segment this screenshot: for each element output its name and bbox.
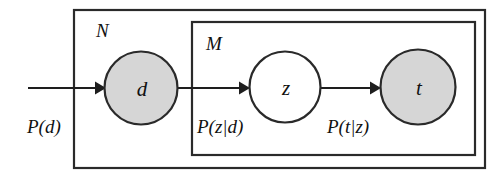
node-z: z	[250, 52, 321, 123]
edge-label-z-t: P(t|z)	[326, 116, 369, 138]
node-d: d	[105, 52, 178, 125]
edge-d-z	[178, 82, 250, 95]
edge-label-prior-d: P(d)	[26, 116, 61, 138]
plate-label-m: M	[205, 33, 223, 54]
diagram-canvas: N M d z t	[0, 0, 504, 180]
edge-prior-d	[28, 82, 106, 95]
edge-z-t-arrowhead	[370, 82, 381, 95]
node-t: t	[381, 50, 456, 125]
node-d-label: d	[137, 77, 148, 101]
edge-d-z-arrowhead	[239, 82, 250, 95]
edge-label-d-z: P(z|d)	[196, 116, 243, 138]
edge-z-t	[321, 82, 381, 95]
node-z-label: z	[281, 76, 290, 100]
plate-diagram: N M d z t	[0, 0, 504, 180]
plate-label-n: N	[95, 20, 110, 41]
